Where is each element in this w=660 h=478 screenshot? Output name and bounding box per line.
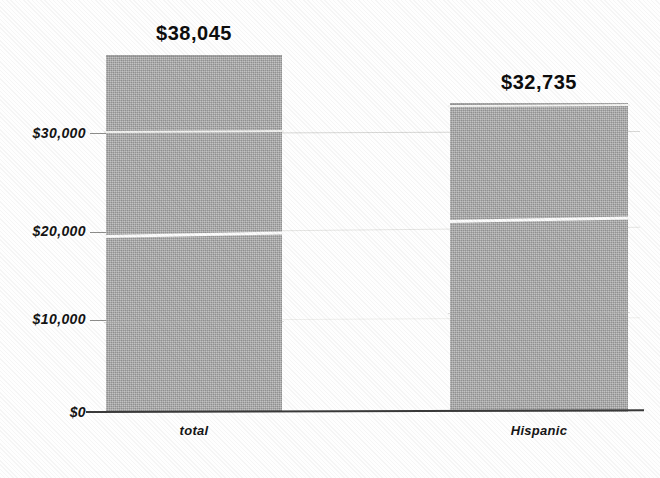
y-axis-labels: $30,000 $20,000 $10,000 $0: [0, 0, 86, 478]
y-axis-label-10000: $10,000: [33, 311, 86, 327]
y-tick-10000: [90, 320, 106, 321]
x-axis-label-total: total: [106, 423, 282, 438]
plot-area: $30,000 $20,000 $10,000 $0 $38,045 $32,7…: [0, 0, 660, 478]
y-tick-30000: [90, 133, 106, 134]
bar-value-label-hispanic: $32,735: [450, 71, 628, 94]
x-axis-baseline: [96, 409, 644, 413]
bar-hispanic[interactable]: [450, 103, 628, 412]
y-axis-label-20000: $20,000: [33, 223, 86, 239]
y-axis-label-30000: $30,000: [33, 125, 86, 141]
y-axis-label-0: $0: [70, 404, 86, 420]
bar-value-label-total: $38,045: [106, 22, 282, 45]
bar-chart: $30,000 $20,000 $10,000 $0 $38,045 $32,7…: [0, 0, 660, 478]
x-axis-label-hispanic: Hispanic: [450, 423, 628, 438]
y-tick-20000: [90, 232, 106, 233]
